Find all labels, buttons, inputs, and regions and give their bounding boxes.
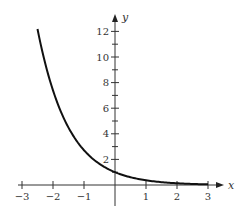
y-tick-label: 10 bbox=[96, 52, 109, 63]
y-tick-label: 4 bbox=[103, 128, 109, 139]
x-tick-label: 2 bbox=[174, 191, 180, 202]
y-axis-arrow-icon bbox=[112, 14, 118, 22]
y-tick-label: 8 bbox=[103, 77, 109, 88]
x-axis-arrow-icon bbox=[216, 182, 224, 188]
x-tick-label: −2 bbox=[46, 191, 61, 202]
curve-e-neg-x bbox=[38, 29, 209, 184]
x-tick-label: 1 bbox=[143, 191, 149, 202]
y-tick-label: 2 bbox=[103, 154, 109, 165]
exponential-decay-chart: −3−2−1123 24681012 x y bbox=[0, 0, 246, 219]
x-tick-label: 3 bbox=[205, 191, 211, 202]
y-axis: 24681012 bbox=[96, 14, 119, 206]
y-tick-label: 12 bbox=[96, 26, 109, 37]
y-axis-label: y bbox=[121, 11, 129, 24]
x-tick-label: −3 bbox=[15, 191, 30, 202]
y-tick-label: 6 bbox=[103, 103, 109, 114]
x-axis-label: x bbox=[228, 179, 235, 192]
x-tick-label: −1 bbox=[77, 191, 92, 202]
